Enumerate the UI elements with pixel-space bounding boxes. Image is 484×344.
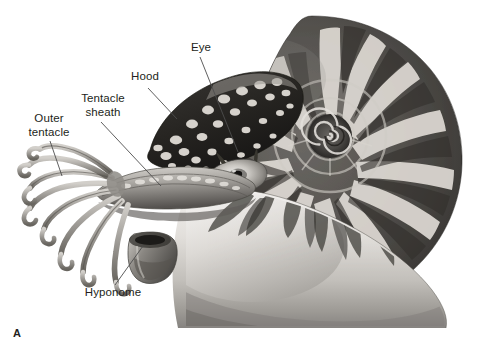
nautilus-illustration (0, 0, 484, 344)
label-hood: Hood (125, 70, 165, 84)
label-eye: Eye (187, 41, 215, 55)
panel-letter: A (13, 327, 21, 339)
nautilus-figure: Outer tentacle Tentacle sheath Hood Eye … (0, 0, 484, 344)
label-tentacle-sheath: Tentacle sheath (70, 92, 136, 119)
label-hyponome: Hyponome (77, 286, 149, 300)
